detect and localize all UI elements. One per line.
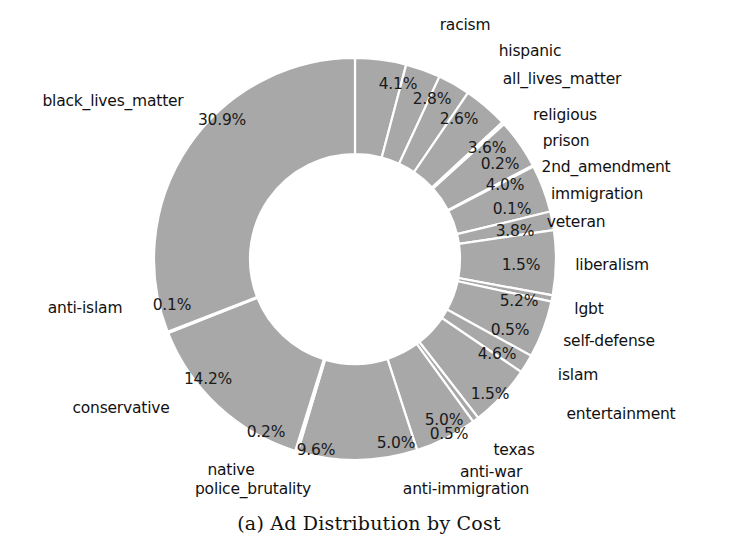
slice-category-label: all_lives_matter <box>503 70 621 88</box>
slice-percent-label: 0.5% <box>491 321 530 339</box>
slice-percent-label: 4.0% <box>486 176 525 194</box>
slice-category-label: veteran <box>547 213 606 231</box>
slice-percent-label: 0.1% <box>493 200 532 218</box>
slice-category-label: police_brutality <box>195 480 311 498</box>
donut-chart <box>0 0 738 558</box>
slice-percent-label: 0.2% <box>481 155 520 173</box>
slice-percent-label: 0.5% <box>430 425 469 443</box>
slice-category-label: 2nd_amendment <box>541 158 670 176</box>
slice-category-label: immigration <box>551 185 643 203</box>
slice-category-label: anti-war <box>460 463 522 481</box>
pie-slice <box>154 58 355 332</box>
slice-percent-label: 2.6% <box>440 110 479 128</box>
slice-percent-label: 4.6% <box>478 345 517 363</box>
slice-percent-label: 1.5% <box>502 256 541 274</box>
slice-category-label: religious <box>533 106 597 124</box>
slice-category-label: texas <box>493 441 534 459</box>
slice-category-label: conservative <box>72 399 169 417</box>
slice-percent-label: 4.1% <box>379 75 418 93</box>
slice-percent-label: 14.2% <box>184 370 232 388</box>
slice-category-label: entertainment <box>567 405 676 423</box>
slice-percent-label: 9.6% <box>297 441 336 459</box>
slice-category-label: racism <box>440 16 491 34</box>
slice-category-label: anti-immigration <box>403 480 529 498</box>
slice-percent-label: 5.0% <box>377 434 416 452</box>
slice-category-label: black_lives_matter <box>42 92 183 110</box>
slice-category-label: hispanic <box>499 42 562 60</box>
slice-percent-label: 1.5% <box>471 385 510 403</box>
slice-percent-label: 30.9% <box>198 111 246 129</box>
figure-caption: (a) Ad Distribution by Cost <box>0 512 738 534</box>
slice-category-label: native <box>207 461 254 479</box>
slice-category-label: liberalism <box>575 256 649 274</box>
slice-percent-label: 0.1% <box>153 296 192 314</box>
slice-category-label: lgbt <box>574 300 603 318</box>
figure-ad-distribution-by-cost: 4.1%2.8%2.6%3.6%0.2%4.0%0.1%3.8%1.5%5.2%… <box>0 0 738 558</box>
slice-category-label: prison <box>543 132 590 150</box>
slice-category-label: self-defense <box>563 332 655 350</box>
slice-percent-label: 5.2% <box>500 292 539 310</box>
slice-category-label: islam <box>558 366 598 384</box>
slice-percent-label: 0.2% <box>247 423 286 441</box>
slice-percent-label: 3.8% <box>496 222 535 240</box>
slice-percent-label: 2.8% <box>413 90 452 108</box>
slice-category-label: anti-islam <box>48 299 123 317</box>
